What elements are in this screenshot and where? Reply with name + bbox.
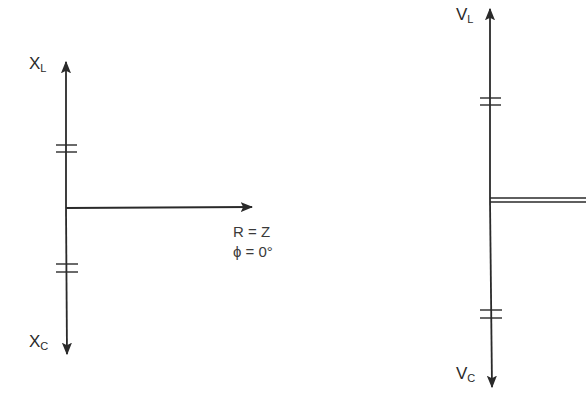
vr-double-line bbox=[490, 198, 586, 202]
vl-label: VL bbox=[456, 6, 473, 25]
vc-label-main: V bbox=[456, 364, 467, 383]
xl-label-sub: L bbox=[40, 62, 46, 74]
vc-label-sub: C bbox=[467, 372, 475, 384]
r-equals-z-label: R = Z bbox=[233, 222, 270, 242]
phase-angle-label: ϕ = 0° bbox=[233, 242, 273, 262]
vl-label-main: V bbox=[456, 5, 467, 24]
xc-label: XC bbox=[29, 333, 48, 352]
xl-label-main: X bbox=[29, 54, 40, 73]
left-impedance-diagram bbox=[56, 62, 252, 354]
xc-label-main: X bbox=[29, 332, 40, 351]
phasor-diagrams bbox=[0, 0, 586, 393]
xc-label-sub: C bbox=[40, 340, 48, 352]
right-voltage-diagram bbox=[480, 9, 586, 387]
vc-label: VC bbox=[456, 365, 475, 384]
xc-axis-arrow bbox=[66, 208, 67, 354]
xl-label: XL bbox=[29, 55, 46, 74]
vc-axis-arrow bbox=[490, 200, 492, 387]
r-equals-z-arrow bbox=[66, 207, 252, 208]
vl-label-sub: L bbox=[467, 13, 473, 25]
